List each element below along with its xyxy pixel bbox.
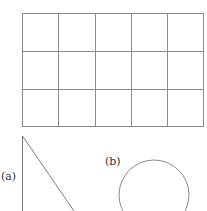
label-a: (a) — [1, 170, 16, 183]
grid — [23, 14, 204, 127]
grid-border — [23, 14, 204, 127]
figure-a-triangle — [23, 136, 75, 211]
triangle-hypotenuse — [23, 136, 75, 211]
figure-b-circle — [119, 160, 189, 211]
circle-shape — [119, 160, 189, 211]
diagram-canvas — [0, 0, 207, 211]
label-b: (b) — [105, 155, 121, 168]
